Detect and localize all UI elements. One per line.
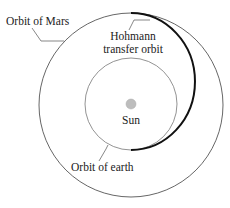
mars-orbit-label: Orbit of Mars	[6, 15, 70, 27]
diagram-canvas: Orbit of Mars Hohmann transfer orbit Sun…	[0, 0, 230, 208]
earth-orbit-leader	[99, 145, 108, 161]
hohmann-transfer-diagram: Orbit of Mars Hohmann transfer orbit Sun…	[0, 0, 230, 208]
sun-icon	[126, 99, 136, 109]
transfer-orbit-leader	[129, 20, 150, 30]
earth-orbit-label: Orbit of earth	[71, 161, 134, 173]
transfer-orbit-label-line2: transfer orbit	[103, 43, 164, 55]
sun-label: Sun	[122, 114, 140, 126]
transfer-orbit-label-line1: Hohmann	[110, 30, 156, 42]
mars-orbit-leader	[32, 28, 64, 41]
